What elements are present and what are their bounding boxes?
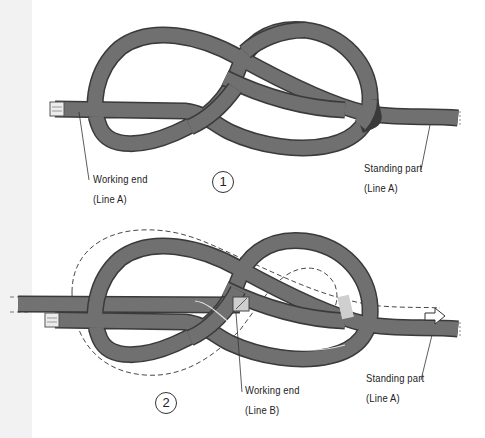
step1-standing-part-label: Standing part (Line A) <box>364 160 422 196</box>
step1-standing-part-leader <box>421 125 430 170</box>
step2-figure-eight-bend <box>10 230 460 375</box>
step2-working-end-label: Working end (Line B) <box>245 382 300 418</box>
step1-number-badge: 1 <box>212 171 234 193</box>
step1-working-end-leader <box>79 112 89 180</box>
step1-figure-eight-knot <box>50 30 460 148</box>
step2-number-badge: 2 <box>155 392 177 414</box>
step2-line-a-end-cap <box>45 313 59 327</box>
step1-working-end-label: Working end (Line A) <box>93 171 148 207</box>
step1-rope-end-cap <box>50 102 64 116</box>
step2-standing-part-label: Standing part (Line A) <box>366 370 424 406</box>
